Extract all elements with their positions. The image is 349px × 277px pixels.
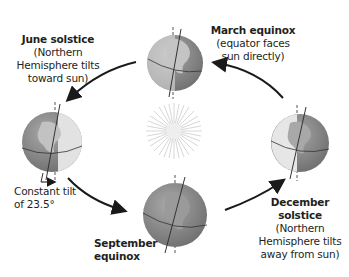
globe-june-solstice (22, 102, 82, 182)
label-september-equinox: September equinox (94, 237, 164, 263)
label-desc: (equator faces (203, 37, 303, 50)
sun-icon (146, 103, 202, 159)
label-tilt-note: Constant tilt of 23.5° (14, 185, 94, 211)
label-desc: (Northern (250, 222, 349, 235)
label-desc: away from sun) (250, 248, 349, 261)
arrow-december-to-march (217, 63, 283, 98)
label-title: March equinox (203, 24, 303, 37)
label-desc: toward sun) (8, 72, 108, 85)
label-december-solstice: December solstice (Northern Hemisphere t… (250, 196, 349, 261)
label-desc: Constant tilt (14, 185, 94, 198)
label-desc: of 23.5° (14, 198, 94, 211)
globe-march-equinox (147, 27, 203, 99)
label-desc: sun directly) (203, 50, 303, 63)
label-title: September (94, 237, 164, 250)
label-title: equinox (94, 250, 164, 263)
label-desc: (Northern (8, 46, 108, 59)
label-desc: Hemisphere tilts (8, 59, 108, 72)
label-desc: Hemisphere tilts (250, 235, 349, 248)
label-title: June solstice (8, 33, 108, 46)
label-title: solstice (250, 209, 349, 222)
label-march-equinox: March equinox (equator faces sun directl… (203, 24, 303, 63)
globe-december-solstice (271, 105, 329, 181)
label-june-solstice: June solstice (Northern Hemisphere tilts… (8, 33, 108, 85)
label-title: December (250, 196, 349, 209)
